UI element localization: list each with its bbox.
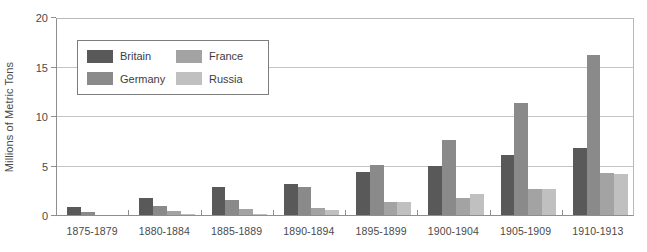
bar-britain-1890-1894 [284,184,298,216]
legend-label-britain: Britain [120,50,151,62]
bar-germany-1880-1884 [153,206,167,216]
bar-britain-1900-1904 [428,166,442,216]
x-tick-label: 1910-1913 [562,221,634,241]
bar-group-bars [490,18,562,216]
bar-group [490,18,562,216]
legend-item-germany: Germany [87,72,170,85]
x-tick-label: 1880-1884 [128,221,200,241]
x-axis-labels: 1875-18791880-18841885-18891890-18941895… [56,221,634,241]
bar-russia-1910-1913 [614,174,628,216]
bar-france-1900-1904 [456,198,470,216]
x-tick-label: 1900-1904 [417,221,489,241]
legend-label-russia: Russia [209,73,243,85]
legend-label-france: France [209,50,243,62]
bar-britain-1895-1899 [356,172,370,216]
y-tick-label-15: 15 [14,62,48,74]
bar-france-1895-1899 [384,202,398,216]
bar-britain-1910-1913 [573,148,587,216]
legend-item-russia: Russia [176,72,259,85]
y-tick-label-10: 10 [14,111,48,123]
bar-france-1905-1909 [528,189,542,216]
bar-germany-1895-1899 [370,165,384,216]
legend-item-britain: Britain [87,50,170,63]
y-tick-label-0: 0 [14,210,48,222]
legend-swatch-britain [87,50,113,63]
bar-france-1910-1913 [600,173,614,216]
bar-germany-1900-1904 [442,140,456,216]
legend-swatch-russia [176,72,202,85]
bar-group [345,18,417,216]
bar-france-1880-1884 [167,211,181,216]
y-tick-label-5: 5 [14,161,48,173]
legend: BritainFranceGermanyRussia [77,40,269,95]
bar-russia-1900-1904 [470,194,484,216]
steel-production-bar-chart: Millions of Metric Tons 05101520 1875-18… [0,0,647,252]
bar-group-bars [417,18,489,216]
bar-group-bars [562,18,634,216]
bar-germany-1905-1909 [514,103,528,216]
bar-britain-1875-1879 [67,207,81,216]
bar-germany-1885-1889 [225,200,239,216]
x-tick-label: 1875-1879 [56,221,128,241]
legend-swatch-germany [87,72,113,85]
x-tick-label: 1895-1899 [345,221,417,241]
bar-germany-1890-1894 [298,187,312,216]
bar-russia-1890-1894 [325,210,339,216]
bar-russia-1905-1909 [542,189,556,216]
legend-item-france: France [176,50,259,63]
bar-group [417,18,489,216]
y-axis: 05101520 [0,18,56,216]
bar-group-bars [273,18,345,216]
bar-france-1885-1889 [239,209,253,216]
bar-france-1875-1879 [95,215,109,216]
bar-germany-1875-1879 [81,212,95,216]
bar-britain-1905-1909 [501,155,515,216]
legend-label-germany: Germany [120,73,165,85]
y-tick-label-20: 20 [14,12,48,24]
bar-britain-1885-1889 [212,187,226,216]
bar-russia-1895-1899 [397,202,411,216]
legend-swatch-france [176,50,202,63]
bar-germany-1910-1913 [587,55,601,216]
bar-britain-1880-1884 [139,198,153,216]
bar-group [273,18,345,216]
x-tick-label: 1890-1894 [273,221,345,241]
bar-russia-1875-1879 [108,215,122,216]
bar-group-bars [345,18,417,216]
x-tick-label: 1905-1909 [490,221,562,241]
bar-russia-1885-1889 [253,214,267,216]
bar-russia-1880-1884 [181,214,195,216]
bar-france-1890-1894 [311,208,325,216]
x-tick-label: 1885-1889 [201,221,273,241]
bar-group [562,18,634,216]
